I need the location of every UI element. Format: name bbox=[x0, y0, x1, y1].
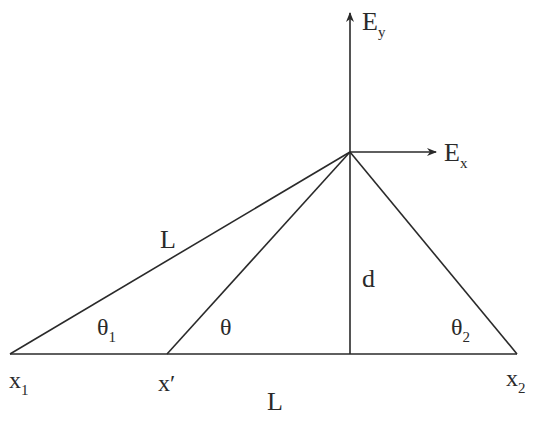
x1-label: x1 bbox=[9, 367, 29, 398]
distance-d-label: d bbox=[362, 264, 375, 293]
theta2-label: θ2 bbox=[451, 314, 470, 345]
theta1-label: θ1 bbox=[97, 314, 116, 345]
hypotenuse-length-label: L bbox=[160, 225, 176, 254]
ey-label: Ey bbox=[362, 7, 386, 40]
x-prime-label: x′ bbox=[158, 370, 175, 396]
x2-label: x2 bbox=[506, 365, 526, 396]
line-x-prime bbox=[167, 152, 350, 354]
hypotenuse-left bbox=[10, 152, 350, 354]
base-length-label: L bbox=[267, 387, 283, 416]
hypotenuse-right bbox=[350, 152, 517, 354]
theta-label: θ bbox=[220, 314, 232, 340]
ex-label: Ex bbox=[444, 138, 468, 171]
field-geometry-diagram: Ey Ex L d θ1 θ θ2 x1 x′ x2 L bbox=[0, 0, 535, 421]
